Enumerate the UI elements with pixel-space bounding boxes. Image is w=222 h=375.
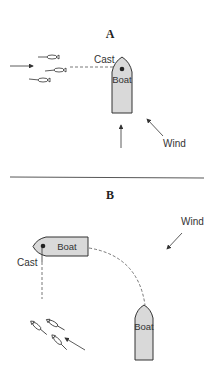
fish-icon xyxy=(50,333,68,351)
fish-icon xyxy=(29,78,50,82)
cast-label-a: Cast xyxy=(94,54,115,65)
angler-dot-icon xyxy=(41,244,46,249)
fish-icon xyxy=(45,318,65,332)
current-arrow-icon xyxy=(65,338,85,350)
fish-icon xyxy=(29,320,48,337)
wind-arrow-icon xyxy=(147,119,163,136)
panel-b: B Wind Boat Cast Boat xyxy=(17,188,204,360)
panel-a-title: A xyxy=(106,27,115,41)
boat-a-label: Boat xyxy=(112,74,132,85)
fish-school-a xyxy=(29,55,66,82)
drift-path xyxy=(89,248,145,305)
fish-icon xyxy=(38,55,59,59)
cast-label-b: Cast xyxy=(17,257,38,268)
wind-label-b: Wind xyxy=(181,216,204,227)
wind-label-a: Wind xyxy=(163,138,186,149)
angler-dot-icon xyxy=(120,67,125,72)
boat-b2 xyxy=(135,305,153,360)
boat-b1-label: Boat xyxy=(57,241,77,252)
wind-arrow-icon xyxy=(167,233,182,249)
boat-b2-label: Boat xyxy=(134,321,154,332)
fish-school-b xyxy=(29,318,68,351)
panel-divider xyxy=(10,177,204,178)
boat-a xyxy=(112,57,132,113)
fish-icon xyxy=(45,68,66,72)
panel-a: A Cast Boa xyxy=(10,27,186,149)
fishing-diagram: A Cast Boa xyxy=(0,0,222,375)
panel-b-title: B xyxy=(106,188,114,202)
